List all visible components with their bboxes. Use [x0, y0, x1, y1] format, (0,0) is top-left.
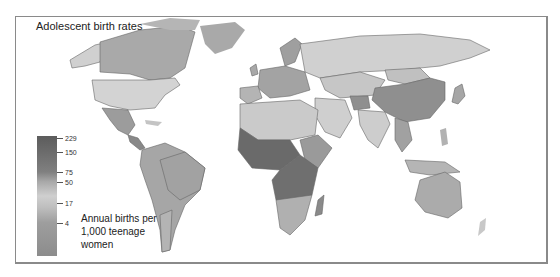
legend-tick [57, 138, 63, 139]
region-new-zealand [478, 218, 486, 236]
region-caribbean [145, 120, 162, 126]
region-se-asia [395, 118, 412, 152]
legend-tick [57, 172, 63, 173]
region-argentina [160, 210, 172, 252]
legend-tick-label: 150 [65, 149, 77, 156]
legend-annotation-line: Annual births per [81, 212, 161, 225]
region-north-africa [240, 100, 318, 140]
region-iberia [240, 86, 262, 104]
legend-tick-label: 75 [65, 169, 73, 176]
region-europe [258, 66, 310, 98]
legend-annotation-line: 1,000 teenage [81, 225, 161, 238]
legend-tick-label: 17 [65, 200, 73, 207]
region-southern-africa [276, 195, 312, 235]
region-greenland [200, 22, 245, 54]
region-philippines [440, 128, 448, 146]
region-uk [250, 64, 258, 76]
legend-tick [57, 203, 63, 204]
legend-tick-label: 50 [65, 179, 73, 186]
region-usa [92, 78, 180, 110]
legend-tick-label: 4 [65, 220, 69, 227]
region-australia [415, 172, 462, 218]
region-india [358, 110, 390, 148]
map-title: Adolescent birth rates [36, 20, 142, 32]
region-japan [452, 84, 465, 104]
region-afghanistan [350, 96, 370, 110]
legend-tick [57, 182, 63, 183]
legend-tick-label: 229 [65, 135, 77, 142]
legend-tick [57, 152, 63, 153]
legend-tick [57, 223, 63, 224]
region-madagascar [315, 195, 324, 216]
region-mexico [102, 108, 135, 135]
region-middle-east [315, 98, 352, 138]
legend-annotation-line: women [81, 238, 161, 251]
legend-annotation: Annual births per 1,000 teenage women [81, 212, 161, 251]
region-scandinavia [280, 38, 302, 66]
region-central-america [128, 135, 145, 150]
legend-colorbar [37, 136, 57, 256]
region-canada [100, 26, 195, 80]
region-indonesia [405, 160, 460, 175]
region-arctic-islands [140, 18, 200, 30]
